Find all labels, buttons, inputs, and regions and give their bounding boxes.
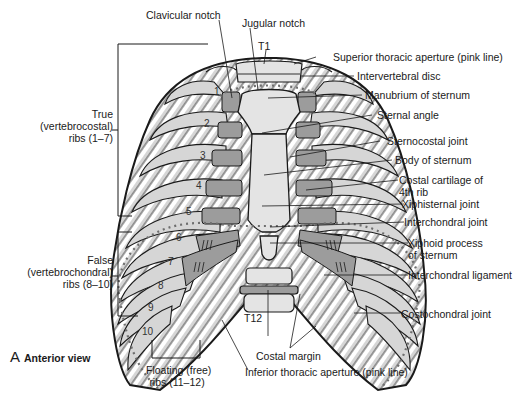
label-xiphoid-line1: Xiphoid process	[408, 237, 483, 249]
rib-number-1: 1	[214, 86, 220, 97]
label-false-line3: ribs (8–10)	[63, 278, 113, 290]
label-costal-cartilage: Costal cartilage of 4th rib	[399, 174, 483, 198]
caption-letter: A	[10, 348, 20, 365]
label-false-ribs: False (vertebrochondral) ribs (8–10)	[27, 254, 113, 290]
caption-view: Anterior view	[24, 352, 91, 364]
label-superior-thoracic-aperture: Superior thoracic aperture (pink line)	[333, 51, 503, 63]
label-costal-cartilage-line1: Costal cartilage of	[399, 174, 483, 186]
label-costochondral-joint: Costochondral joint	[401, 308, 491, 320]
t12-vertebra	[240, 268, 298, 312]
rib-number-3: 3	[200, 150, 206, 161]
figure-caption: AAnterior view	[10, 348, 91, 365]
label-true-line1: True	[92, 108, 113, 120]
label-body-of-sternum: Body of sternum	[395, 154, 471, 166]
label-xiphoid-line2: of sternum	[408, 249, 458, 261]
label-inferior-thoracic-aperture: Inferior thoracic aperture (pink line)	[245, 366, 408, 378]
rib-number-10: 10	[142, 326, 153, 337]
label-interchondral-joint: Interchondral joint	[404, 216, 487, 228]
label-floating-ribs: Floating (free) ribs (11–12)	[146, 364, 208, 388]
rib-number-9: 9	[148, 302, 154, 313]
label-jugular-notch: Jugular notch	[242, 17, 305, 29]
label-t1: T1	[258, 40, 270, 52]
label-xiphisternal-joint: Xiphisternal joint	[402, 198, 479, 210]
label-costal-margin: Costal margin	[256, 350, 321, 362]
label-true-line3: ribs (1–7)	[69, 132, 113, 144]
label-xiphoid-process: Xiphoid process of sternum	[408, 237, 483, 261]
label-t12: T12	[244, 312, 262, 324]
rib-number-4: 4	[196, 180, 202, 191]
label-sternal-angle: Sternal angle	[377, 109, 439, 121]
label-manubrium: Manubrium of sternum	[365, 89, 470, 101]
label-true-ribs: True (vertebrocostal) ribs (1–7)	[40, 108, 113, 144]
rib-number-5: 5	[186, 206, 192, 217]
label-floating-line2: ribs (11–12)	[149, 376, 204, 388]
rib-number-2: 2	[204, 118, 210, 129]
label-false-line1: False	[87, 254, 113, 266]
label-true-line2: (vertebrocostal)	[40, 120, 113, 132]
body-of-sternum	[248, 134, 290, 232]
label-false-line2: (vertebrochondral)	[27, 266, 113, 278]
rib-number-6: 6	[176, 232, 182, 243]
xiphoid-process	[260, 236, 278, 260]
rib-cage-figure: 1 2 3 4 5 6 7 8 9 10 Clavicular notch Ju…	[0, 0, 521, 409]
label-intervertebral-disc: Intervertebral disc	[357, 70, 440, 82]
label-interchondral-ligament: Interchondral ligament	[408, 269, 512, 281]
label-clavicular-notch: Clavicular notch	[146, 9, 221, 21]
rib-number-8: 8	[158, 280, 164, 291]
rib-number-7: 7	[168, 256, 174, 267]
label-floating-line1: Floating (free)	[146, 364, 211, 376]
label-sternocostal-joint: Sternocostal joint	[387, 135, 468, 147]
label-costal-cartilage-line2: 4th rib	[399, 186, 428, 198]
